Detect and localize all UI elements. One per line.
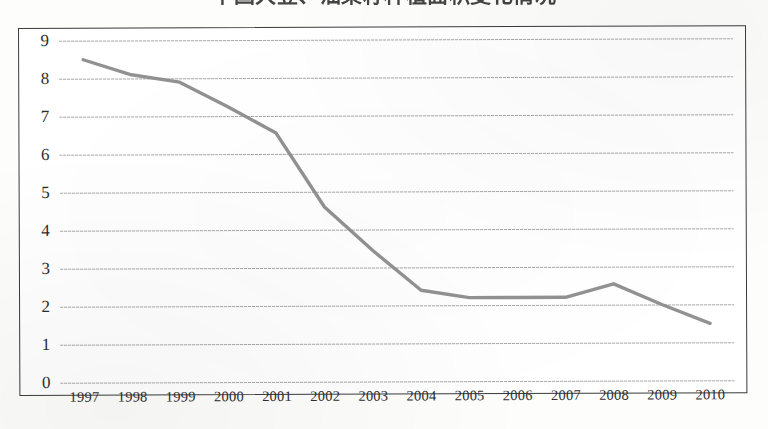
y-axis-tick-label: 6 — [41, 146, 50, 163]
chart-title: 中国大豆、油菜籽种植面积变化情况 — [0, 0, 768, 8]
x-axis-tick-label: 2007 — [551, 387, 581, 404]
y-axis-tick-label: 4 — [41, 222, 50, 239]
chart-frame: 9876543210 19971998199920002001200220032… — [18, 25, 747, 396]
scanned-page-background: 中国大豆、油菜籽种植面积变化情况 9876543210 199719981999… — [0, 0, 768, 429]
plot-area: 9876543210 19971998199920002001200220032… — [59, 38, 734, 383]
y-axis-tick-label: 7 — [41, 108, 50, 125]
x-axis-tick-label: 2003 — [358, 388, 388, 405]
x-axis-tick-label: 2008 — [599, 387, 629, 404]
x-axis-tick-label: 2009 — [647, 386, 677, 403]
x-axis-tick-label: 2006 — [503, 387, 533, 404]
x-axis-tick-label: 2004 — [407, 387, 437, 404]
data-series-line — [59, 38, 734, 383]
x-axis-tick-label: 1997 — [70, 389, 100, 406]
x-axis-tick-label: 1999 — [166, 388, 196, 405]
x-axis-tick-label: 2000 — [214, 388, 244, 405]
y-axis-tick-label: 3 — [41, 260, 50, 277]
y-axis-tick-label: 9 — [41, 32, 50, 49]
x-axis-tick-label: 2002 — [310, 388, 340, 405]
x-axis-tick-label: 2001 — [262, 388, 292, 405]
x-axis-tick-label: 1998 — [118, 389, 148, 406]
x-axis-tick-label: 2005 — [455, 387, 485, 404]
chart-title-container: 中国大豆、油菜籽种植面积变化情况 — [0, 0, 768, 18]
y-axis-tick-label: 1 — [42, 336, 51, 353]
x-axis-tick-label: 2010 — [695, 386, 725, 403]
y-axis-tick-label: 0 — [42, 374, 51, 391]
y-axis-tick-label: 5 — [41, 184, 50, 201]
y-axis-tick-label: 2 — [42, 298, 51, 315]
y-axis-tick-label: 8 — [41, 70, 50, 87]
series-1-path — [83, 57, 710, 325]
